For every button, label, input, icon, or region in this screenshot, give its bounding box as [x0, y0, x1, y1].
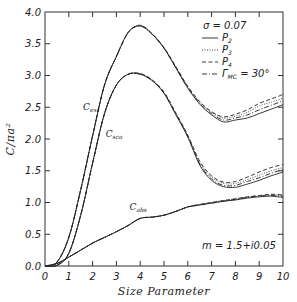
y-tick-label: 0.0: [25, 261, 41, 272]
curve-label-sca: Csca: [106, 129, 123, 140]
x-tick-label: 6: [185, 271, 191, 282]
curve-11: [45, 196, 283, 267]
legend: σ = 0.07 P2P3P4ΓMC = 30°: [202, 20, 269, 80]
curve-10: [45, 194, 283, 266]
curve-6: [45, 73, 283, 267]
refractive-index-label: m = 1.5+i0.05: [202, 240, 276, 251]
curve-label-ext: Cext: [83, 102, 100, 113]
x-tick-label: 7: [208, 271, 215, 282]
x-tick-label: 10: [277, 271, 290, 282]
x-tick-label: 2: [89, 271, 95, 282]
y-tick-label: 3.5: [25, 38, 41, 49]
data-curves: [45, 25, 283, 266]
curve-2: [45, 25, 283, 266]
curve-7: [45, 73, 283, 266]
curve-4: [45, 73, 283, 266]
legend-entry: ΓMC = 30°: [222, 68, 269, 80]
plot-frame: [45, 12, 283, 266]
y-tick-label: 2.5: [25, 102, 41, 113]
legend-entry: P2: [222, 32, 232, 44]
curve-annotations: CextCscaCabsm = 1.5+i0.05: [83, 102, 276, 250]
x-axis-title: Size Parameter: [118, 285, 211, 298]
curve-1: [45, 25, 283, 266]
legend-entry: P4: [222, 56, 232, 68]
curve-0: [45, 26, 283, 266]
y-tick-label: 1.0: [25, 197, 41, 208]
y-tick-label: 2.0: [25, 134, 41, 145]
x-tick-label: 1: [66, 271, 72, 282]
x-tick-label: 5: [161, 271, 167, 282]
x-tick-label: 0: [42, 271, 48, 282]
y-axis-title: C/πa²: [4, 123, 17, 156]
curve-3: [45, 26, 283, 266]
axis-ticks: [45, 12, 283, 266]
legend-header: σ = 0.07: [203, 20, 247, 31]
x-tick-label: 9: [256, 271, 262, 282]
x-tick-label: 4: [137, 271, 143, 282]
legend-entry: P3: [222, 44, 232, 56]
curve-8: [45, 196, 283, 266]
x-tick-label: 8: [232, 271, 238, 282]
y-tick-label: 1.5: [25, 165, 41, 176]
y-tick-label: 4.0: [25, 7, 41, 18]
y-tick-label: 3.0: [25, 70, 41, 81]
curve-5: [45, 73, 283, 267]
chart-canvas: 0123456789100.00.51.01.52.02.53.03.54.0 …: [0, 0, 297, 302]
y-tick-label: 0.5: [25, 229, 41, 240]
x-tick-label: 3: [113, 271, 119, 282]
curve-9: [45, 195, 283, 266]
curve-label-abs: Cabs: [129, 202, 146, 213]
